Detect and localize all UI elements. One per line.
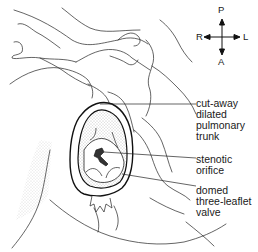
compass-anterior: A (218, 56, 224, 67)
arrow-left-icon (204, 35, 210, 40)
stipple-shading (16, 140, 52, 220)
arrow-down-icon (220, 49, 225, 55)
arrow-up-icon (220, 19, 225, 25)
arrow-right-icon (234, 35, 240, 40)
label-domed-valve: domed three-leaflet valve (196, 185, 251, 218)
orientation-compass (204, 19, 240, 55)
label-dilated-pulmonary-trunk: cut-away dilated pulmonary trunk (196, 98, 245, 142)
compass-right: R (196, 31, 203, 42)
pulmonary-trunk-cutaway (70, 102, 133, 212)
label-stenotic-orifice: stenotic orifice (196, 154, 232, 176)
compass-left: L (243, 31, 248, 42)
compass-posterior: P (218, 4, 224, 15)
